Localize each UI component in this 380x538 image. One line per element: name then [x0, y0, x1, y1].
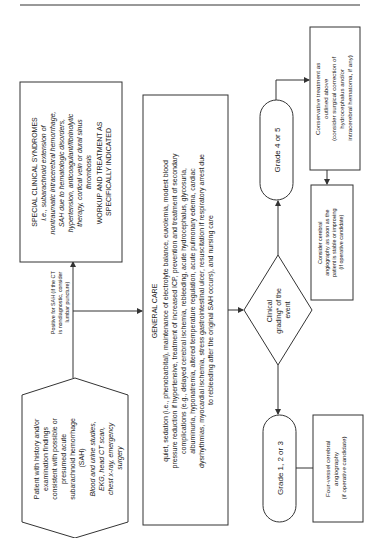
- svg-text:Grade 1, 2 or 3: Grade 1, 2 or 3: [276, 441, 285, 495]
- flowchart: Patient with history and/or examination …: [0, 0, 380, 538]
- svg-text:SPECIAL CLINICAL SYNDROMES: SPECIAL CLINICAL SYNDROMES: [31, 117, 38, 227]
- conservative-text: Conservative treatment as outlined above…: [314, 55, 353, 141]
- positive-for-sah-label: Positive for SAH (if the CT is nondiagno…: [50, 270, 70, 334]
- special-syndromes-text: SPECIAL CLINICAL SYNDROMES i.e., subarac…: [31, 110, 112, 235]
- svg-text:Positive for SAH (if the CT: Positive for SAH (if the CT is nondiagno…: [50, 270, 70, 334]
- grade-1-3-text: Grade 1, 2 or 3: [276, 441, 285, 495]
- svg-text:Conservative treatment as: Conservative treatment as outlined above…: [314, 55, 353, 141]
- arrow-to-conservative: [276, 80, 309, 100]
- grade-4-5-text: Grade 4 or 5: [273, 127, 282, 172]
- svg-text:Grade 4 or 5: Grade 4 or 5: [273, 127, 282, 172]
